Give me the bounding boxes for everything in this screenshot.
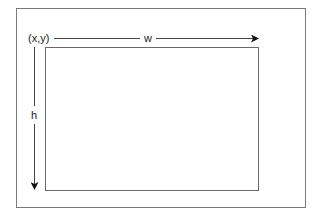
rectangle-geometry-diagram: (x,y) w h: [0, 0, 319, 216]
inner-rectangle: [46, 48, 259, 191]
width-label: w: [143, 32, 152, 44]
height-label: h: [31, 109, 37, 121]
origin-label: (x,y): [28, 32, 49, 44]
